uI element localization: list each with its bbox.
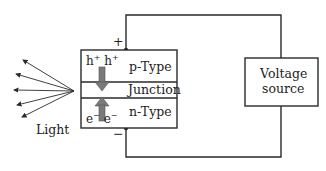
junction-label: Junction	[128, 84, 181, 97]
p-type-label: p-Type	[129, 61, 172, 74]
n-type-label: n-Type	[129, 106, 172, 119]
light-rays	[14, 60, 74, 117]
voltage-source-label-line1: Voltage	[260, 68, 307, 81]
negative-terminal-label: −	[113, 128, 123, 141]
voltage-source-label-line2: source	[262, 83, 304, 96]
light-label: Light	[36, 124, 69, 137]
hole-carriers: h+ h+	[86, 54, 119, 67]
electron-carriers: e− e−	[86, 112, 117, 125]
positive-terminal-label: +	[113, 36, 123, 49]
